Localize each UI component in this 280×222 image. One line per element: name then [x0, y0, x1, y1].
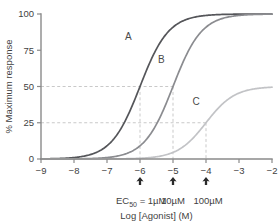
- ec50-value-b: 10µM: [161, 195, 185, 206]
- x-tick-label: −7: [102, 165, 113, 176]
- ec50-value-c: 100µM: [193, 195, 222, 206]
- x-tick-label: −5: [168, 165, 179, 176]
- ec50-arrow: [136, 177, 143, 185]
- x-tick-label: −2: [267, 165, 278, 176]
- y-axis-title: % Maximum response: [3, 40, 14, 134]
- x-tick-label: −8: [69, 165, 80, 176]
- x-tick-label: −4: [201, 165, 212, 176]
- dose-response-chart: 0255075100 −9−8−7−6−5−4−3−2 ABC EC50 = 1…: [0, 0, 280, 222]
- y-axis-tick-labels: 0255075100: [18, 8, 34, 164]
- curve-label-c: C: [192, 96, 199, 107]
- x-tick-label: −3: [234, 165, 245, 176]
- curve-label-a: A: [125, 31, 132, 42]
- ec50-label: EC50 = 1µM: [116, 195, 167, 208]
- x-axis-title: Log [Agonist] (M): [120, 210, 192, 221]
- x-tick-label: −9: [36, 165, 47, 176]
- curve-label-b: B: [158, 54, 165, 65]
- y-tick-label: 25: [23, 117, 34, 128]
- ec50-arrow-markers: [136, 177, 209, 185]
- chart-svg: 0255075100 −9−8−7−6−5−4−3−2 ABC EC50 = 1…: [0, 0, 280, 222]
- ec50-annotation-row: EC50 = 1µM10µM100µM: [116, 195, 223, 208]
- y-tick-label: 100: [18, 8, 34, 19]
- ec50-arrow: [202, 177, 209, 185]
- y-tick-label: 75: [23, 45, 34, 56]
- x-axis-tick-labels: −9−8−7−6−5−4−3−2: [36, 165, 278, 176]
- ec50-arrow: [169, 177, 176, 185]
- y-tick-label: 50: [23, 81, 34, 92]
- axes: [37, 14, 272, 163]
- x-tick-label: −6: [135, 165, 146, 176]
- y-tick-label: 0: [29, 153, 34, 164]
